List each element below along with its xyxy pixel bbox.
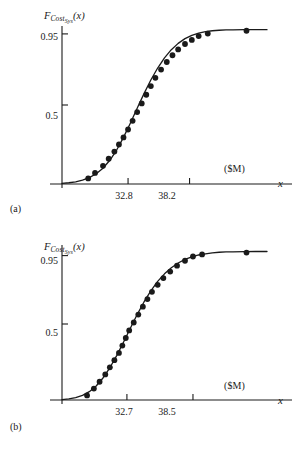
x-tick-label-b-0: 32.7 — [104, 406, 144, 417]
y-axis-label-arg-a: (x) — [73, 10, 85, 21]
y-axis-label-subsub-b: Sys — [65, 249, 73, 255]
data-point — [170, 52, 176, 58]
data-point — [116, 142, 122, 148]
data-point — [106, 156, 112, 162]
data-point — [131, 320, 137, 326]
figure-container: FCostSys(x) 0.95 0.5 32.8 38.2 ($M) x (a… — [0, 0, 292, 463]
data-point — [152, 75, 158, 81]
y-tick-label-a-1: 0.5 — [18, 110, 58, 121]
y-axis-label-sub-b: Cost — [51, 245, 65, 254]
data-point — [182, 258, 188, 264]
x-axis-label-b: x — [278, 394, 283, 406]
data-point — [139, 101, 145, 107]
x-tick-label-a-0: 32.8 — [104, 190, 144, 201]
chart-panel-b: FCostSys(x) 0.95 0.5 32.7 38.5 ($M) x (b… — [0, 231, 292, 463]
data-point — [123, 335, 129, 341]
data-point — [125, 127, 131, 133]
data-point — [100, 163, 106, 169]
y-tick-label-b-0: 0.95 — [18, 255, 58, 266]
y-axis-label-arg-b: (x) — [73, 241, 85, 252]
x-axis-label-a: x — [278, 177, 283, 189]
data-point-group — [85, 28, 249, 182]
data-point — [97, 379, 103, 385]
data-point — [205, 31, 211, 37]
data-point — [148, 83, 154, 89]
x-axis-unit-b: ($M) — [224, 380, 245, 391]
y-tick-label-b-1: 0.5 — [18, 327, 58, 338]
data-point — [85, 176, 91, 182]
panel-caption-b: (b) — [10, 421, 22, 432]
data-point — [102, 372, 108, 378]
data-point — [196, 33, 202, 39]
data-point — [126, 327, 132, 333]
curve-fitted-cdf — [62, 252, 267, 400]
x-axis-unit-a: ($M) — [224, 163, 245, 174]
data-point — [119, 343, 125, 349]
data-point — [199, 251, 205, 257]
curve-fitted-cdf — [62, 30, 267, 184]
data-point — [111, 357, 117, 363]
data-point — [189, 37, 195, 43]
data-point — [91, 386, 97, 392]
data-point — [135, 312, 141, 318]
data-point — [190, 254, 196, 260]
data-point — [107, 364, 113, 370]
x-tick-label-b-1: 38.5 — [147, 406, 187, 417]
y-axis-label-a: FCostSys(x) — [44, 10, 85, 24]
x-tick-label-a-1: 38.2 — [147, 190, 187, 201]
data-point — [140, 304, 146, 310]
data-point — [182, 41, 188, 47]
data-point — [160, 275, 166, 281]
data-point — [244, 250, 250, 256]
data-point — [116, 350, 122, 356]
data-point — [130, 118, 136, 124]
data-point — [164, 59, 170, 65]
data-point — [84, 393, 90, 399]
data-point — [158, 67, 164, 73]
y-axis-label-b: FCostSys(x) — [44, 241, 85, 255]
data-point — [145, 296, 151, 302]
y-axis-label-sub-a: Cost — [51, 14, 65, 23]
data-point — [175, 46, 181, 52]
data-point — [134, 109, 140, 115]
y-tick-label-a-0: 0.95 — [18, 31, 58, 42]
data-point — [92, 170, 98, 176]
data-point — [155, 282, 161, 288]
data-point — [143, 92, 149, 98]
data-point — [149, 289, 155, 295]
data-point — [121, 134, 127, 140]
chart-panel-a: FCostSys(x) 0.95 0.5 32.8 38.2 ($M) x (a… — [0, 0, 292, 232]
data-point — [111, 149, 117, 155]
panel-caption-a: (a) — [10, 203, 21, 214]
data-point — [174, 263, 180, 269]
data-point — [167, 269, 173, 275]
data-point — [244, 28, 250, 34]
y-axis-label-subsub-a: Sys — [65, 18, 73, 24]
